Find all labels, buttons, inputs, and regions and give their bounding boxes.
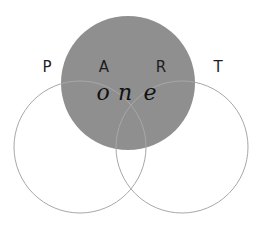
venn-diagram: P A R T o n e [0, 0, 265, 229]
script-char-n: n [118, 80, 132, 105]
letter-a: A [99, 58, 110, 76]
script-char-o: o [96, 80, 109, 105]
script-char-e: e [143, 80, 156, 105]
letter-t: T [212, 58, 223, 76]
letter-r: R [156, 58, 166, 76]
letter-p: P [42, 58, 51, 76]
